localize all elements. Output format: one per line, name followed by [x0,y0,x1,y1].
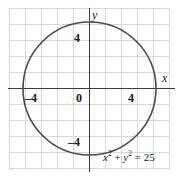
x-tick-label-positive-4: 4 [128,92,134,104]
equation-equals-operator: = [132,151,144,163]
origin-label: 0 [76,92,82,104]
equation-value: 25 [144,151,155,163]
equation-annotation: x2 + y2 = 25 [103,152,155,163]
y-axis-name-label: y [92,9,97,21]
y-tick-label-positive-4: 4 [74,32,80,44]
equation-plus-operator: + [112,151,124,163]
coordinate-plane-figure: –4 4 4 –4 0 x y x2 + y2 = 25 [0,0,181,178]
y-tick-label-negative-4: –4 [68,136,80,148]
x-axis-name-label: x [162,72,167,84]
x-tick-label-negative-4: –4 [25,92,37,104]
